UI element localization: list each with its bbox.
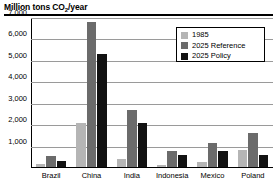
legend-swatch — [181, 42, 188, 49]
chart-title-block: Million tons CO2/year — [4, 2, 273, 13]
legend-item: 2025 Policy — [181, 51, 264, 61]
y-axis-tick-label: 2,000 — [0, 116, 27, 124]
y-axis-line — [31, 18, 32, 168]
bar — [138, 123, 148, 168]
page-title: Million tons CO2/year — [4, 2, 273, 13]
legend-label: 1985 — [192, 31, 209, 39]
y-axis-tick-label: 5,000 — [0, 52, 27, 60]
bar — [208, 143, 218, 168]
bar — [167, 151, 177, 168]
bar-group — [117, 18, 148, 168]
bar — [76, 123, 86, 168]
title-suffix: /year — [68, 2, 87, 12]
bar-group — [36, 18, 67, 168]
y-axis-tick-label: 3,000 — [0, 95, 27, 103]
x-axis-tick-label: India — [112, 171, 152, 180]
x-axis-tick-label: Mexico — [192, 171, 232, 180]
bar — [218, 151, 228, 168]
legend-label: 2025 Policy — [192, 52, 231, 60]
bar — [238, 150, 248, 168]
title-subscript: 2 — [65, 7, 68, 13]
x-axis-tick-label: China — [71, 171, 111, 180]
bar — [97, 54, 107, 168]
bar — [87, 22, 97, 168]
bar — [127, 110, 137, 168]
y-axis-tick-label: 7,000 — [0, 9, 27, 17]
x-axis-tick-label: Brazil — [31, 171, 71, 180]
legend-swatch — [181, 32, 188, 39]
legend-item: 2025 Reference — [181, 41, 264, 51]
y-axis-tick-label: 4,000 — [0, 73, 27, 81]
chart-legend: 19852025 Reference2025 Policy — [176, 27, 265, 62]
x-axis-line — [31, 167, 273, 169]
legend-label: 2025 Reference — [192, 42, 245, 50]
y-axis-tick-label: 6,000 — [0, 30, 27, 38]
title-divider — [4, 14, 273, 16]
legend-item: 1985 — [181, 30, 264, 40]
y-axis-tick-label: 1,000 — [0, 138, 27, 146]
bar-group — [76, 18, 107, 168]
legend-swatch — [181, 53, 188, 60]
x-axis-tick-label: Poland — [233, 171, 273, 180]
x-axis-tick-label: Indonesia — [152, 171, 192, 180]
bar — [248, 133, 258, 168]
chart-container: Million tons CO2/year 1,0002,0003,0004,0… — [0, 0, 277, 184]
